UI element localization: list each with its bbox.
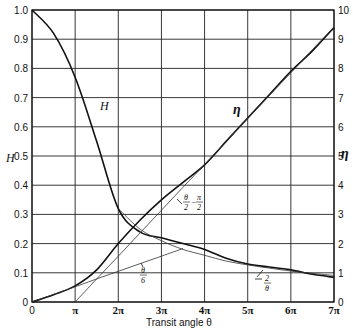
asymptote-label-theta-sixth: θ 6 [140, 263, 147, 285]
asymptote-two-over-theta [118, 209, 334, 276]
left-tick-label: 0.9 [14, 34, 28, 45]
right-tick-label: 7 [338, 93, 344, 104]
svg-text:2: 2 [265, 274, 269, 283]
x-tick-label: 2π [113, 304, 125, 316]
svg-text:6: 6 [141, 276, 145, 285]
svg-text:θ: θ [184, 193, 188, 202]
left-tick-label: 0.6 [14, 122, 28, 133]
eta-curve-label: η [233, 102, 241, 117]
left-tick-label: 0.1 [14, 268, 28, 279]
x-tick-label: 7π [328, 304, 340, 316]
left-axis-ticks: 00.10.20.30.40.50.60.70.80.91.0 [14, 5, 28, 308]
x-tick-label: 3π [156, 304, 168, 316]
chart: 00.10.20.30.40.50.60.70.80.91.0 01234567… [0, 0, 353, 331]
h-curve-label: H [99, 99, 110, 113]
h-curve [32, 10, 334, 277]
right-tick-label: 6 [338, 122, 344, 133]
right-tick-label: 9 [338, 34, 344, 45]
left-tick-label: 0 [22, 297, 28, 308]
x-tick-label: 5π [242, 304, 254, 316]
right-axis-label: η [341, 146, 349, 161]
x-tick-label: 4π [199, 304, 211, 316]
asymptote-label-two-over-theta: 2 θ [255, 270, 271, 293]
right-tick-label: 2 [338, 239, 344, 250]
right-tick-label: 3 [338, 209, 344, 220]
grid-lines [32, 10, 334, 302]
right-tick-label: 4 [338, 180, 344, 191]
right-tick-label: 1 [338, 268, 344, 279]
left-tick-label: 0.3 [14, 209, 28, 220]
left-tick-label: 0.7 [14, 93, 28, 104]
svg-text:θ: θ [141, 266, 145, 275]
left-tick-label: 1.0 [14, 5, 28, 16]
svg-text:θ: θ [265, 284, 269, 293]
svg-text:−: − [191, 198, 196, 207]
right-tick-label: 10 [338, 5, 350, 16]
left-tick-label: 0.5 [14, 151, 28, 162]
svg-text:2: 2 [197, 203, 201, 212]
x-axis-label: Transit angle θ [146, 317, 212, 328]
svg-text:π: π [197, 193, 202, 202]
asymptote-label-theta-half: θ 2 − π 2 [177, 193, 203, 212]
svg-text:2: 2 [184, 203, 188, 212]
left-tick-label: 0.8 [14, 63, 28, 74]
x-tick-label: π [72, 304, 78, 316]
right-tick-label: 8 [338, 63, 344, 74]
x-tick-label: 6π [285, 304, 297, 316]
left-axis-label: H [5, 151, 16, 165]
x-tick-label: 0 [29, 305, 35, 316]
x-axis-ticks: 0π2π3π4π5π6π7π [29, 304, 340, 316]
left-tick-label: 0.2 [14, 239, 28, 250]
left-tick-label: 0.4 [14, 180, 28, 191]
